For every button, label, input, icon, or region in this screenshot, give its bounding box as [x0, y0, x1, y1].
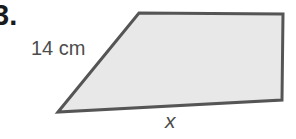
trapezoid-shape [0, 0, 296, 139]
trapezoid-polygon [58, 13, 283, 112]
slanted-side-label: 14 cm [31, 38, 85, 58]
trapezoid-figure: 3. 14 cm x [0, 0, 296, 139]
base-label: x [165, 110, 176, 131]
